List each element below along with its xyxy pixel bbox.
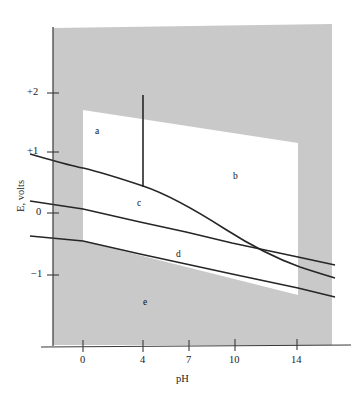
x-tick-label-7: 7	[186, 355, 191, 366]
x-tick-label-4: 4	[140, 355, 145, 366]
x-axis-title: pH	[176, 374, 189, 385]
y-tick-label-zero: 0	[36, 207, 41, 218]
region-label-a: a	[95, 127, 99, 137]
y-axis-title: E, volts	[16, 180, 27, 212]
x-tick-label-10: 10	[229, 355, 240, 366]
x-tick-label-0: 0	[80, 355, 85, 366]
region-label-c: c	[137, 199, 141, 209]
y-tick-label-plus2: +2	[27, 87, 38, 98]
x-tick-label-14: 14	[291, 355, 302, 366]
y-tick-label-minus1: −1	[31, 269, 42, 280]
pourbaix-diagram-figure: +2 +1 0 −1 0 4 7 10 14 pH E, volts a b c…	[0, 0, 358, 395]
x-axis-spine	[41, 345, 351, 347]
region-label-d: d	[176, 250, 181, 260]
plot-canvas	[0, 0, 358, 395]
region-label-e: e	[143, 298, 147, 308]
y-tick-label-plus1: +1	[27, 146, 38, 157]
region-label-b: b	[233, 172, 238, 182]
